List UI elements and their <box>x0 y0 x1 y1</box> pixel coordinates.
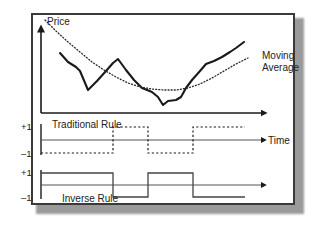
price-panel: Price Moving Average <box>41 16 300 113</box>
price-line <box>60 42 244 105</box>
technical-analysis-diagram: Price Moving Average +1 –1 Traditional R… <box>0 0 313 227</box>
traditional-rule-panel: +1 –1 Traditional Rule Time <box>21 119 290 159</box>
time-axis-label: Time <box>268 135 290 146</box>
traditional-rule-label: Traditional Rule <box>52 119 122 130</box>
moving-average-label-line1: Moving <box>262 50 294 61</box>
moving-average-label-line2: Average <box>262 62 300 73</box>
inverse-minus-one-label: –1 <box>21 192 32 203</box>
traditional-plus-one-label: +1 <box>21 121 32 132</box>
inverse-rule-label: Inverse Rule <box>62 193 119 204</box>
figure-container: Price Moving Average +1 –1 Traditional R… <box>0 0 313 227</box>
price-axis-label: Price <box>47 16 70 27</box>
moving-average-line <box>45 20 248 90</box>
inverse-rule-panel: +1 –1 Inverse Rule <box>21 167 262 204</box>
inverse-plus-one-label: +1 <box>21 167 32 178</box>
traditional-minus-one-label: –1 <box>21 148 32 159</box>
